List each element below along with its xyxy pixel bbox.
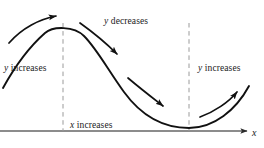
axis-label-x: x — [252, 128, 256, 138]
label-y-increases-left-text: increases — [8, 63, 46, 73]
label-y-increases-right-text: increases — [202, 63, 240, 73]
label-y-increases-left: y increases — [4, 64, 47, 74]
arrow-right-up-icon — [200, 92, 237, 117]
label-x-increases: x increases — [70, 121, 113, 131]
label-y-decreases-text: decreases — [108, 16, 148, 26]
figure-container: y increases y decreases y increases x in… — [0, 0, 264, 148]
sinusoidal-curve — [3, 28, 249, 128]
label-y-decreases: y decreases — [104, 17, 148, 27]
label-x-increases-text: increases — [74, 120, 112, 130]
label-y-increases-right: y increases — [198, 64, 241, 74]
